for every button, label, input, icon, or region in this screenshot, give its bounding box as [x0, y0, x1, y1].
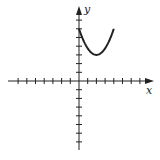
x-axis-label: x [146, 84, 153, 97]
y-axis-arrow-icon [76, 6, 82, 15]
coordinate-plane: y x [0, 0, 160, 160]
y-axis-label: y [83, 3, 91, 16]
axes [8, 6, 154, 150]
parabola-curve [79, 29, 114, 55]
